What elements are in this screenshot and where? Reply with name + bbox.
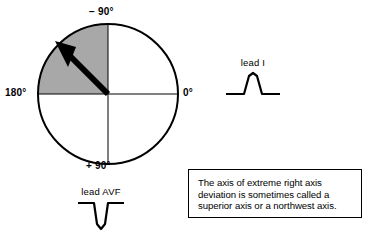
angle-label-0: 0°: [183, 87, 193, 98]
caption-box: The axis of extreme right axis deviation…: [188, 169, 362, 218]
lead-I-waveform-block: lead I: [218, 57, 288, 103]
lead-I-waveform-icon: [218, 69, 288, 99]
angle-label-plus-90: + 90°: [86, 160, 111, 171]
lead-AVF-waveform-block: lead AVF: [62, 186, 140, 233]
figure-canvas: − 90° 180° 0° + 90° lead I lead AVF The …: [0, 0, 371, 233]
angle-label-minus-90: − 90°: [89, 6, 114, 17]
lead-AVF-label: lead AVF: [62, 186, 140, 197]
angle-label-180: 180°: [5, 87, 26, 98]
lead-I-label: lead I: [218, 57, 288, 68]
lead-AVF-waveform-icon: [62, 198, 140, 233]
caption-text: The axis of extreme right axis deviation…: [198, 177, 355, 212]
